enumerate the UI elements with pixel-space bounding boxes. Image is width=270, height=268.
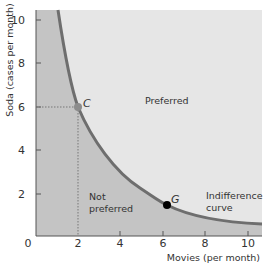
x-tick-2: 2 bbox=[75, 237, 82, 250]
indifference-label-1: Indifference bbox=[206, 190, 263, 201]
indifference-label-2: curve bbox=[206, 202, 233, 213]
x-tick-0: 0 bbox=[25, 237, 32, 250]
x-axis-title: Movies (per month) bbox=[167, 252, 260, 263]
x-tick-8: 8 bbox=[202, 237, 209, 250]
not-preferred-label-2: preferred bbox=[89, 203, 133, 214]
point-c bbox=[74, 103, 82, 111]
y-axis-title: Soda (cases per month) bbox=[4, 3, 15, 117]
point-c-label: C bbox=[83, 97, 91, 110]
indifference-chart: C G 10 8 6 4 2 0 2 4 6 8 10 Movies (per … bbox=[0, 0, 270, 268]
point-g-label: G bbox=[171, 193, 180, 206]
preferred-label: Preferred bbox=[145, 95, 189, 106]
y-tick-6: 6 bbox=[18, 101, 25, 114]
y-tick-4: 4 bbox=[18, 144, 25, 157]
x-tick-4: 4 bbox=[117, 237, 124, 250]
x-tick-10: 10 bbox=[241, 237, 255, 250]
x-tick-6: 6 bbox=[160, 237, 167, 250]
y-tick-2: 2 bbox=[18, 188, 25, 201]
not-preferred-label-1: Not bbox=[89, 191, 106, 202]
point-g bbox=[163, 201, 171, 209]
y-tick-8: 8 bbox=[18, 57, 25, 70]
